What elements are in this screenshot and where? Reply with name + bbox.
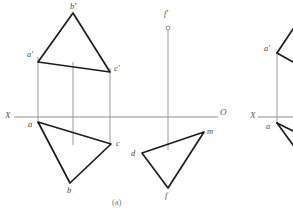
axis-label-x: X (4, 110, 11, 120)
vertex-label-f: f (165, 190, 169, 200)
triangle-a-b-c-frontal (38, 13, 110, 72)
figure-caption: (a) (112, 197, 122, 207)
edge-upper-right-1 (277, 29, 293, 53)
vertex-label-a-prime-partial: a' (264, 43, 270, 53)
axis-label-x-partial: X (249, 110, 256, 120)
triangle-a-b-c-horizontal (38, 122, 111, 183)
vertex-label-a-prime: a' (27, 49, 33, 59)
vertex-label-a: a (28, 119, 32, 129)
vertex-label-c: c (116, 138, 120, 148)
vertex-label-b: b (67, 185, 71, 195)
point-f-prime-marker (166, 26, 170, 30)
axis-label-o: O (220, 107, 227, 117)
vertex-label-d: d (131, 148, 136, 158)
vertex-label-f-prime: f' (164, 8, 168, 18)
triangle-d-f-m (142, 132, 204, 188)
descriptive-geometry-figure: X O X a' b' c' a b c f' d f m a' a (a) (0, 0, 293, 214)
edge-upper-right-2 (277, 53, 293, 62)
vertex-label-c-prime: c' (114, 63, 120, 73)
vertex-label-b-prime: b' (70, 1, 76, 11)
figure-canvas: X O X a' b' c' a b c f' d f m a' a (a) (0, 0, 293, 214)
vertex-label-a-partial: a (266, 121, 270, 131)
vertex-label-m: m (207, 126, 213, 136)
